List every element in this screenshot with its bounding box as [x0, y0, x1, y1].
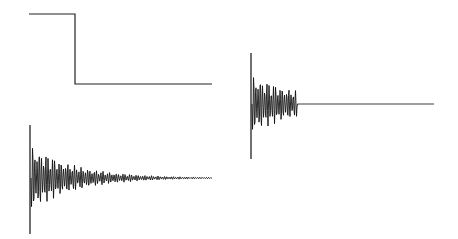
damped-oscillation-line: [31, 148, 212, 206]
step-line: [29, 14, 212, 84]
truncated-response-plot: [251, 53, 434, 159]
truncated-oscillation-line: [252, 78, 434, 130]
step-function-plot: [29, 14, 212, 84]
figure-canvas: [0, 0, 458, 239]
impulse-response-plot: [30, 125, 212, 234]
